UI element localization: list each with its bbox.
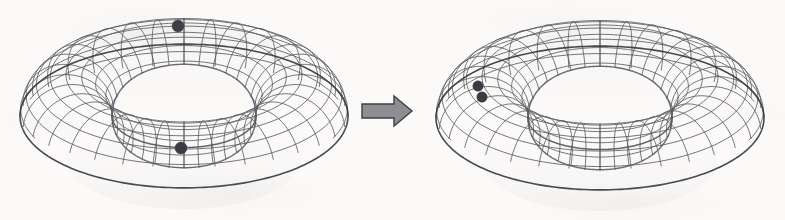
torus-diagram-canvas: maps to [0, 0, 785, 220]
transformation-arrow-group: maps to [362, 96, 412, 126]
merged-point-upper [473, 81, 483, 91]
merged-point-lower [477, 92, 487, 102]
torus-latitude-line [749, 111, 763, 140]
bottom-marked-point [175, 142, 187, 154]
right-torus-group [436, 20, 764, 211]
transformation-arrow [362, 96, 412, 126]
torus-latitude-line [333, 109, 347, 138]
left-torus-group [20, 18, 348, 209]
torus-transformation-figure: maps to [0, 0, 785, 220]
top-marked-point [172, 20, 184, 32]
